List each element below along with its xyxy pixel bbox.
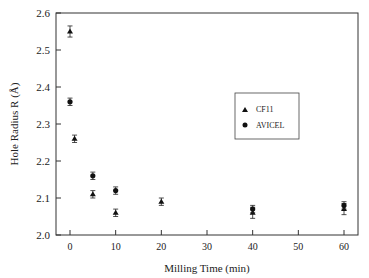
- x-tick-label: 30: [202, 241, 212, 252]
- legend-cf11: CF11: [256, 105, 274, 114]
- y-tick-label: 2.5: [36, 44, 50, 56]
- x-axis-label: Milling Time (min): [164, 262, 250, 275]
- circle-marker-icon: [243, 123, 248, 128]
- y-axis: 2.02.12.22.32.42.52.6: [36, 7, 61, 241]
- x-axis: 0102030405060: [68, 230, 350, 252]
- y-tick-label: 2.4: [36, 81, 50, 93]
- circle-marker: [341, 203, 346, 208]
- circle-marker: [250, 207, 255, 212]
- triangle-marker: [113, 210, 119, 215]
- triangle-marker: [158, 199, 164, 204]
- y-tick-label: 2.6: [36, 7, 50, 19]
- y-tick-label: 2.0: [36, 229, 50, 241]
- circle-marker: [113, 188, 118, 193]
- x-tick-label: 10: [111, 241, 121, 252]
- x-tick-label: 40: [248, 241, 258, 252]
- circle-marker: [90, 173, 95, 178]
- y-axis-label: Hole Radius R (Å): [8, 82, 21, 165]
- triangle-marker: [90, 191, 96, 196]
- triangle-marker: [72, 136, 78, 141]
- plot-frame: [56, 13, 358, 235]
- x-tick-label: 50: [293, 241, 303, 252]
- x-tick-label: 20: [156, 241, 166, 252]
- y-tick-label: 2.3: [36, 118, 50, 130]
- legend: CF11 AVICEL: [235, 93, 299, 139]
- data-points: [67, 26, 347, 218]
- y-tick-label: 2.2: [36, 155, 50, 167]
- y-tick-label: 2.1: [36, 192, 50, 204]
- chart: 2.02.12.22.32.42.52.6 0102030405060 Hole…: [0, 0, 369, 278]
- x-tick-label: 0: [68, 241, 73, 252]
- x-tick-label: 60: [339, 241, 349, 252]
- legend-avicel: AVICEL: [256, 121, 284, 130]
- circle-marker: [67, 99, 72, 104]
- legend-box: [235, 93, 299, 139]
- triangle-marker: [67, 29, 73, 34]
